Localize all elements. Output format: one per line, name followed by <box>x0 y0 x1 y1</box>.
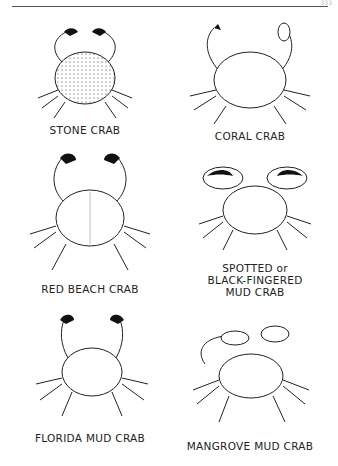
crab-label: CORAL CRAB <box>180 130 320 142</box>
crab-label: MANGROVE MUD CRAB <box>175 440 325 452</box>
crab-drawing-icon <box>180 22 320 132</box>
coral-crab-illustration <box>180 22 320 132</box>
header-rule <box>12 6 328 7</box>
spotted-mud-crab-illustration <box>185 150 325 260</box>
crab-label: STONE CRAB <box>20 124 150 136</box>
crab-drawing-icon <box>20 310 160 425</box>
florida-mud-crab-illustration <box>20 310 160 425</box>
crab-drawing-icon <box>20 20 150 125</box>
crab-label: RED BEACH CRAB <box>20 283 160 295</box>
stone-crab-illustration <box>20 20 150 125</box>
mangrove-mud-crab-illustration <box>175 320 325 430</box>
red-beach-crab-illustration <box>20 150 160 280</box>
crab-drawing-icon <box>175 320 325 430</box>
crab-drawing-icon <box>20 150 160 280</box>
crab-label: SPOTTED or BLACK-FINGERED MUD CRAB <box>185 262 325 298</box>
crab-drawing-icon <box>185 150 325 260</box>
page-number: 333 <box>321 0 332 6</box>
crab-label: FLORIDA MUD CRAB <box>20 432 160 444</box>
